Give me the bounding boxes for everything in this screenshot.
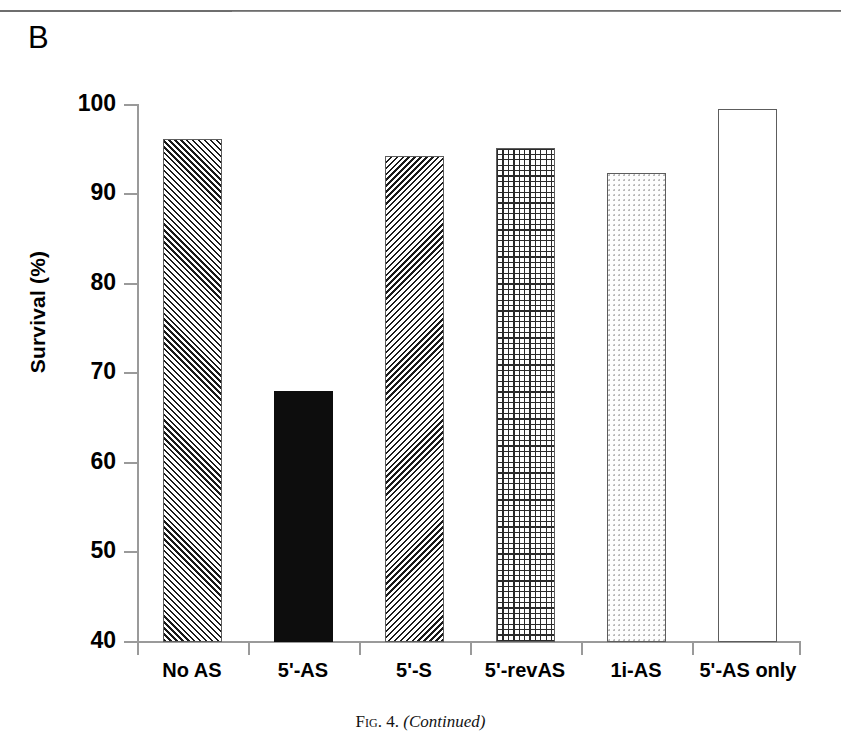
x-tick-3	[470, 643, 472, 655]
y-axis-title: Survival (%)	[26, 212, 50, 412]
y-tick-90	[124, 193, 137, 195]
y-tick-label-50-text: 50	[90, 539, 116, 562]
y-tick-label-70-text: 70	[90, 360, 116, 383]
y-tick-label-80-text: 80	[90, 271, 116, 294]
y-tick-60	[124, 462, 137, 464]
x-axis-line	[137, 641, 801, 643]
caption-prefix: Fig.	[356, 712, 382, 731]
y-tick-40	[124, 641, 137, 643]
y-tick-70	[124, 372, 137, 374]
bar-chart-figure: Survival (%) 100 90 80 70 60 50 40 No AS…	[0, 0, 841, 700]
bar-no-as[interactable]	[163, 139, 222, 642]
y-tick-label-100-text: 100	[78, 92, 116, 115]
y-tick-label-60-text: 60	[90, 450, 116, 473]
y-tick-100	[124, 104, 137, 106]
bar-5p-as-only[interactable]	[718, 109, 777, 642]
y-tick-50	[124, 551, 137, 553]
bar-5p-as[interactable]	[274, 391, 333, 642]
caption-note: (Continued)	[403, 712, 485, 731]
x-tick-6	[799, 643, 801, 655]
x-tick-4	[581, 643, 583, 655]
bar-1i-as[interactable]	[607, 173, 666, 642]
x-tick-5	[692, 643, 694, 655]
x-tick-0	[137, 643, 139, 655]
bar-5p-revas[interactable]	[496, 148, 555, 642]
y-tick-label-40-text: 40	[90, 629, 116, 652]
caption-number: 4.	[386, 712, 399, 731]
x-tick-2	[359, 643, 361, 655]
x-label-5p-as-only: 5'-AS only	[673, 660, 823, 680]
y-tick-label-90-text: 90	[90, 181, 116, 204]
bar-5p-s[interactable]	[385, 156, 444, 642]
y-axis-line	[137, 104, 139, 642]
figure-caption: Fig. 4. (Continued)	[0, 712, 841, 732]
y-tick-80	[124, 283, 137, 285]
x-tick-1	[248, 643, 250, 655]
